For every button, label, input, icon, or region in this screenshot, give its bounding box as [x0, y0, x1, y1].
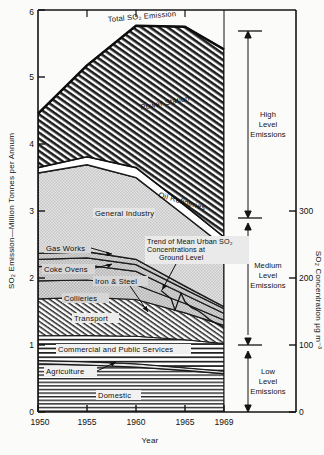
label-general-industry: General Industry — [95, 209, 154, 218]
label-domestic: Domestic — [98, 391, 131, 400]
label-commercial-public-services-group: Commercial and Public Services — [56, 344, 191, 354]
ytick-4: 4 — [29, 139, 34, 149]
xtick-1960: 1960 — [127, 417, 146, 427]
bracket-medium-line3: Emissions — [250, 281, 286, 290]
chart-figure: 0 1 2 3 4 5 6 1950 1955 1960 1965 1969 0… — [0, 0, 324, 455]
xtick-1965: 1965 — [176, 417, 195, 427]
bracket-medium-line1: Medium — [254, 261, 282, 270]
so2-emission-area-chart: 0 1 2 3 4 5 6 1950 1955 1960 1965 1969 0… — [0, 0, 324, 455]
label-commercial-public-services: Commercial and Public Services — [58, 345, 173, 354]
label-general-industry-group: General Industry — [93, 208, 155, 218]
bracket-low-line1: Low — [261, 367, 276, 376]
bracket-medium-line2: Level — [259, 271, 278, 280]
label-gas-works: Gas Works — [46, 244, 85, 253]
bracket-high-line3: Emissions — [250, 130, 286, 139]
callout-line3: Ground Level — [159, 253, 204, 262]
bracket-high-line1: High — [260, 110, 276, 119]
xtick-1969: 1969 — [215, 417, 234, 427]
bracket-low-line2: Level — [259, 377, 278, 386]
ytick-0: 0 — [29, 407, 34, 417]
label-collieries-group: Collieries — [62, 293, 109, 303]
y2tick-0: 0 — [299, 407, 304, 417]
ytick-2: 2 — [29, 273, 34, 283]
label-transport: Transport — [74, 314, 109, 323]
xtick-1955: 1955 — [78, 417, 97, 427]
y2tick-300: 300 — [299, 206, 313, 216]
y2-axis-title: SO₂ Concentration µg m⁻³ — [314, 251, 323, 349]
bracket-high-line2: Level — [259, 120, 278, 129]
y-axis-title: SO₂ Emission—Million Tonnes per Annum — [7, 133, 16, 289]
label-domestic-group: Domestic — [96, 390, 141, 400]
ytick-5: 5 — [29, 72, 34, 82]
ytick-1: 1 — [29, 340, 34, 350]
xtick-1950: 1950 — [31, 417, 50, 427]
label-transport-group: Transport — [72, 313, 119, 323]
label-agriculture: Agriculture — [46, 367, 85, 376]
x-axis-title: Year — [142, 436, 159, 445]
ytick-6: 6 — [29, 7, 34, 17]
bracket-low-line3: Emissions — [250, 387, 286, 396]
label-coke-ovens: Coke Ovens — [44, 265, 88, 274]
ytick-3: 3 — [29, 206, 34, 216]
y2tick-200: 200 — [299, 273, 313, 283]
label-iron-and-steel: Iron & Steel — [95, 277, 137, 286]
y2tick-100: 100 — [299, 340, 313, 350]
label-collieries: Collieries — [64, 294, 97, 303]
